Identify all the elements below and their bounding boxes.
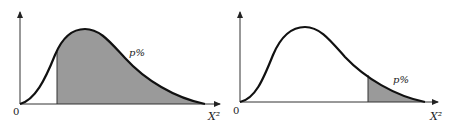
right-density-curve (240, 27, 425, 102)
right-origin-label: 0 (233, 105, 239, 116)
left-shaded-area (20, 29, 205, 104)
chi-square-figure: 0 X² p% 0 X² p% (0, 0, 452, 126)
left-chart: 0 X² p% (13, 12, 220, 123)
left-p-annotation: p% (129, 47, 145, 58)
left-origin-label: 0 (13, 106, 19, 117)
right-x-axis-label: X² (429, 110, 442, 123)
right-p-annotation: p% (393, 74, 409, 85)
left-x-axis-label: X² (207, 110, 220, 123)
right-chart: 0 X² p% (233, 12, 442, 123)
right-shaded-area (240, 27, 425, 102)
